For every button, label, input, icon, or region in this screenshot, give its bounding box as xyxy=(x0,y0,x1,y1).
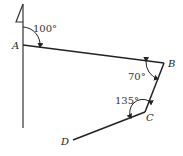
geometry-diagram: A B C D 100° 70° 135° xyxy=(0,0,183,156)
point-label-a: A xyxy=(11,40,19,51)
point-label-d: D xyxy=(60,136,69,147)
angle-label-a: 100° xyxy=(33,23,57,34)
segment-ab xyxy=(23,45,164,63)
angle-label-c: 135° xyxy=(115,95,139,106)
north-arrow-icon xyxy=(16,4,23,22)
diagram-svg: A B C D 100° 70° 135° xyxy=(0,0,183,156)
angle-arc-b xyxy=(146,61,158,79)
angle-label-b: 70° xyxy=(128,71,146,82)
point-label-b: B xyxy=(167,58,175,69)
point-label-c: C xyxy=(146,112,154,123)
segment-cd xyxy=(73,112,145,140)
